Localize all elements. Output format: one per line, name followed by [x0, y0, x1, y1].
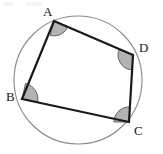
- angle-arc-group: [22, 21, 133, 122]
- vertex-label-D: D: [139, 41, 148, 54]
- vertex-label-A: A: [43, 5, 52, 18]
- vertex-label-C: C: [134, 124, 143, 137]
- quadrilateral-ABCD: [22, 21, 133, 122]
- geometry-figure: A D C B: [0, 0, 163, 154]
- vertex-label-B: B: [6, 90, 15, 103]
- circumscribed-circle: [14, 16, 142, 144]
